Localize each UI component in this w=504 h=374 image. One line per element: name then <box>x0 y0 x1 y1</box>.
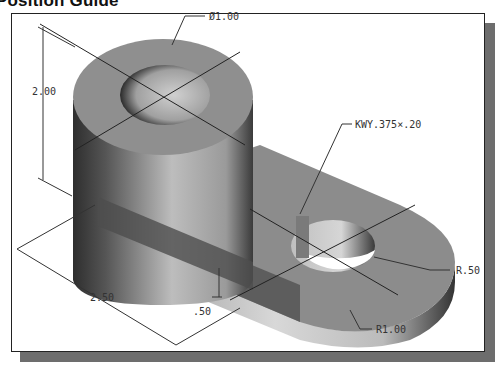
dim-height: 2.00 <box>32 86 56 97</box>
dim-hole-diameter: Ø1.00 <box>209 11 239 22</box>
dim-arm-thickness: .50 <box>193 306 211 317</box>
dim-end-radius: R1.00 <box>376 324 406 335</box>
cad-drawing: Ø1.00 2.00 KWY.375×.20 R.50 R1.00 2.50 .… <box>0 0 504 374</box>
dim-hole-radius: R.50 <box>456 265 480 276</box>
cylinder-boss <box>73 39 253 305</box>
dim-length: 2.50 <box>90 292 114 303</box>
dim-keyway: KWY.375×.20 <box>355 119 421 130</box>
